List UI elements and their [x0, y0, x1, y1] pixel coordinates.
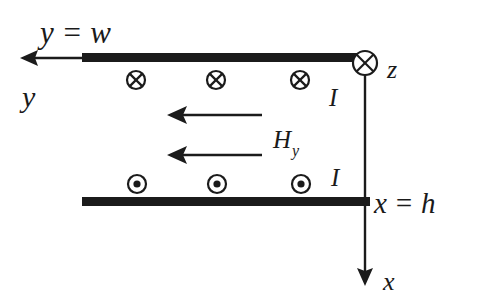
label-y-equals-w: y = w	[37, 15, 111, 50]
cross-in-circle-icon	[127, 71, 145, 89]
label-x-equals-h: x = h	[373, 187, 435, 219]
label-z-axis: z	[386, 55, 397, 84]
field-arrow-lower	[167, 146, 262, 164]
current-out-of-page-row	[128, 175, 310, 193]
cross-in-circle-icon	[207, 71, 225, 89]
label-current-bottom: I	[330, 164, 341, 191]
physics-diagram: y = w y z x x = h I I H y	[0, 0, 479, 295]
z-axis-into-page-icon	[353, 51, 377, 75]
diagram-canvas: y = w y z x x = h I I H y	[0, 0, 479, 295]
bottom-bar	[82, 197, 370, 206]
label-field-Hy: H y	[272, 126, 300, 160]
x-axis-arrow	[357, 63, 373, 286]
dot-in-circle-icon	[128, 175, 146, 193]
cross-in-circle-icon	[291, 71, 309, 89]
label-y-axis: y	[19, 80, 36, 113]
bottom-current-sheet	[82, 197, 370, 206]
top-bar	[82, 53, 370, 62]
current-into-page-row	[127, 71, 309, 89]
label-field-H: H	[272, 126, 293, 153]
y-axis-arrow	[20, 50, 82, 66]
field-arrow-upper	[167, 106, 262, 124]
dot-in-circle-icon	[208, 175, 226, 193]
label-x-axis: x	[382, 267, 395, 295]
dot-in-circle-icon	[292, 175, 310, 193]
label-current-top: I	[328, 84, 339, 111]
label-field-subscript-y: y	[290, 142, 300, 160]
top-current-sheet	[82, 53, 370, 62]
